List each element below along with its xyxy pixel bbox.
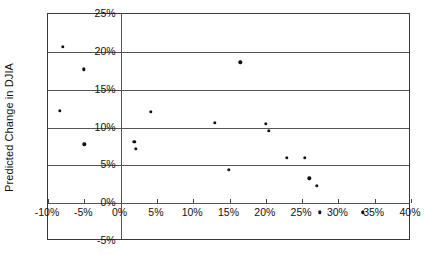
data-point <box>285 156 288 159</box>
x-axis-tick-label: 0% <box>112 206 127 218</box>
data-point <box>82 68 85 71</box>
data-point <box>318 211 321 214</box>
x-axis-tick <box>411 199 412 203</box>
data-point <box>83 142 86 145</box>
x-axis-tick-label: -5% <box>74 206 93 218</box>
data-point <box>133 140 136 143</box>
data-point <box>308 176 311 179</box>
data-point <box>227 168 230 171</box>
data-point <box>239 61 242 64</box>
x-axis-tick <box>193 199 194 203</box>
x-axis-tick-label: 15% <box>218 206 239 218</box>
x-axis-tick-label: 25% <box>291 206 312 218</box>
x-axis-tick-label: 40% <box>399 206 420 218</box>
x-axis-tick-label: -10% <box>35 206 60 218</box>
x-axis-tick <box>230 199 231 203</box>
y-axis-tick-label: 10% <box>72 121 116 133</box>
data-point <box>61 45 64 48</box>
y-axis-title: Predicted Change in DJIA <box>0 0 18 255</box>
x-axis-tick-label: 10% <box>182 206 203 218</box>
y-axis-tick-label: 15% <box>72 83 116 95</box>
y-axis-tick-label: 5% <box>72 158 116 170</box>
data-point <box>264 122 267 125</box>
x-axis-tick <box>338 199 339 203</box>
y-axis-tick-label: 20% <box>72 45 116 57</box>
x-axis-tick-label: 20% <box>254 206 275 218</box>
x-axis-tick-label: 35% <box>363 206 384 218</box>
x-axis-tick <box>48 199 49 203</box>
x-axis-tick <box>302 199 303 203</box>
x-axis-tick-label: 30% <box>327 206 348 218</box>
data-point <box>213 121 216 124</box>
x-axis-tick <box>266 199 267 203</box>
x-axis-tick-label: 5% <box>148 206 163 218</box>
y-axis-tick-label: 25% <box>72 7 116 19</box>
x-axis-tick <box>121 199 122 203</box>
data-point <box>303 156 306 159</box>
y-axis-tick-label: -5% <box>72 234 116 246</box>
data-point <box>134 147 137 150</box>
data-point <box>267 129 270 132</box>
scatter-chart: Predicted Change in DJIA -5%0%5%10%15%20… <box>0 0 424 255</box>
data-point <box>149 110 152 113</box>
x-axis-tick <box>375 199 376 203</box>
data-point <box>58 109 61 112</box>
data-point <box>315 184 318 187</box>
x-axis-tick <box>157 199 158 203</box>
